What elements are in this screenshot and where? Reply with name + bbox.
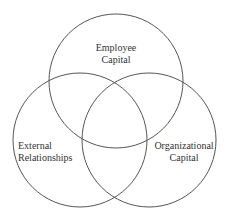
label-line: Capital xyxy=(86,54,146,66)
circle-employee-capital xyxy=(49,14,183,148)
venn-diagram xyxy=(0,0,226,221)
label-organizational-capital: Organizational Capital xyxy=(152,140,216,164)
label-line: Relationships xyxy=(18,152,72,164)
label-line: External xyxy=(18,140,72,152)
label-line: Employee xyxy=(86,42,146,54)
label-external-relationships: External Relationships xyxy=(18,140,72,164)
label-line: Organizational xyxy=(152,140,216,152)
label-employee-capital: Employee Capital xyxy=(86,42,146,66)
label-line: Capital xyxy=(152,152,216,164)
